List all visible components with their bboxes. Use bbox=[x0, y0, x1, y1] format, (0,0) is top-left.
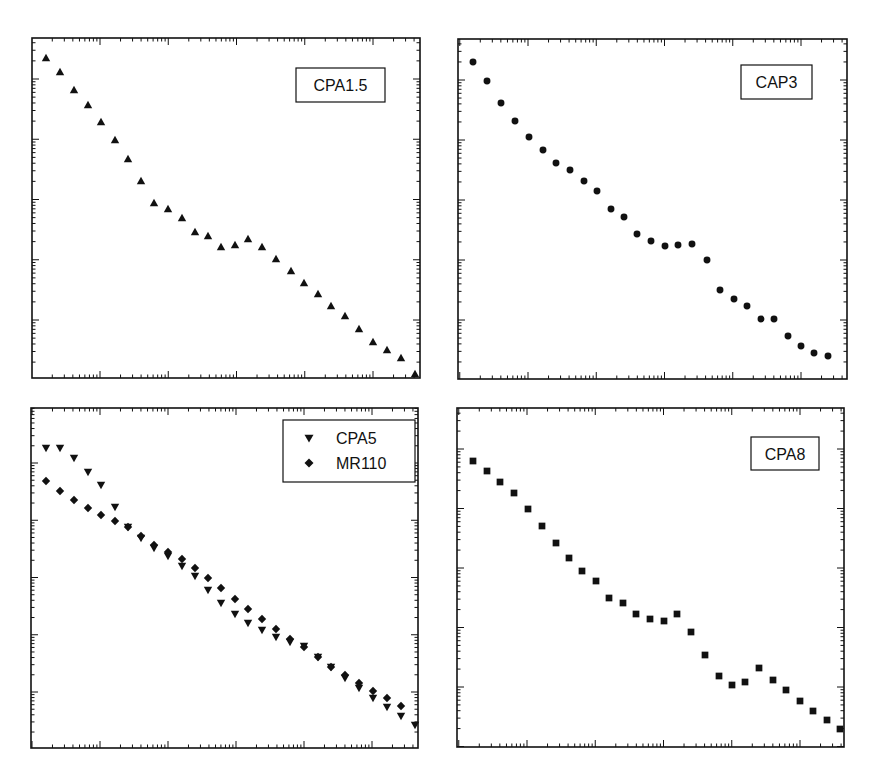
series-label: CPA8 bbox=[765, 446, 806, 463]
square-marker bbox=[553, 540, 560, 547]
triangle-down-marker bbox=[42, 445, 50, 452]
circle-marker bbox=[648, 238, 655, 245]
square-marker bbox=[620, 600, 627, 607]
circle-marker bbox=[567, 167, 574, 174]
triangle-down-marker bbox=[217, 600, 225, 607]
triangle-up-marker bbox=[42, 54, 50, 61]
square-marker bbox=[742, 679, 749, 686]
circle-marker bbox=[662, 243, 669, 250]
figure: CPA1.5 CAP3 CPA5MR110 CPA8 bbox=[0, 0, 870, 768]
circle-marker bbox=[634, 231, 641, 238]
diamond-marker bbox=[178, 555, 186, 563]
circle-marker bbox=[825, 353, 832, 360]
square-marker bbox=[702, 652, 709, 659]
triangle-up-marker bbox=[341, 312, 349, 319]
series-label: CPA1.5 bbox=[314, 77, 368, 94]
square-marker bbox=[688, 629, 695, 636]
square-marker bbox=[797, 698, 804, 705]
circle-marker bbox=[540, 147, 547, 154]
triangle-down-marker bbox=[191, 573, 199, 580]
series-label-box: CAP3 bbox=[741, 65, 812, 99]
triangle-down-marker bbox=[369, 695, 377, 702]
triangle-up-marker bbox=[191, 228, 199, 235]
triangle-up-marker bbox=[369, 338, 377, 345]
triangle-up-marker bbox=[56, 68, 64, 75]
square-marker bbox=[810, 708, 817, 715]
triangle-down-marker bbox=[204, 587, 212, 594]
square-marker bbox=[484, 468, 491, 475]
legend-entry-label: CPA5 bbox=[336, 430, 377, 447]
circle-marker bbox=[621, 214, 628, 221]
diamond-marker bbox=[397, 702, 405, 710]
triangle-down-marker bbox=[56, 445, 64, 452]
circle-marker bbox=[470, 59, 477, 66]
square-marker bbox=[770, 677, 777, 684]
square-marker bbox=[674, 611, 681, 618]
triangle-up-marker bbox=[314, 290, 322, 297]
diamond-marker bbox=[97, 511, 105, 519]
diamond-marker bbox=[204, 574, 212, 582]
panel-cap3: CAP3 bbox=[458, 39, 847, 379]
circle-marker bbox=[689, 241, 696, 248]
panel-cpa5-mr110: CPA5MR110 bbox=[31, 408, 419, 748]
circle-marker bbox=[594, 188, 601, 195]
square-marker bbox=[783, 687, 790, 694]
square-marker bbox=[661, 618, 668, 625]
circle-marker bbox=[581, 178, 588, 185]
series-label-box: CPA8 bbox=[751, 437, 819, 470]
square-marker bbox=[633, 611, 640, 618]
circle-marker bbox=[744, 303, 751, 310]
circle-marker bbox=[553, 160, 560, 167]
square-marker bbox=[497, 479, 504, 486]
triangle-down-marker bbox=[383, 704, 391, 711]
square-marker bbox=[566, 555, 573, 562]
square-marker bbox=[593, 578, 600, 585]
square-marker bbox=[525, 506, 532, 513]
circle-marker bbox=[675, 242, 682, 249]
square-marker bbox=[511, 490, 518, 497]
triangle-up-marker bbox=[164, 205, 172, 212]
diamond-marker bbox=[191, 564, 199, 572]
triangle-down-marker bbox=[178, 563, 186, 570]
circle-marker bbox=[798, 343, 805, 350]
triangle-up-marker bbox=[70, 86, 78, 93]
circle-marker bbox=[704, 257, 711, 264]
square-marker bbox=[824, 717, 831, 724]
triangle-down-marker bbox=[97, 482, 105, 489]
triangle-up-marker bbox=[287, 267, 295, 274]
legend: CPA5MR110 bbox=[283, 420, 415, 482]
triangle-down-marker bbox=[84, 469, 92, 476]
triangle-down-marker bbox=[397, 713, 405, 720]
triangle-down-marker bbox=[111, 504, 119, 511]
diamond-marker bbox=[383, 694, 391, 702]
diamond-marker bbox=[272, 625, 280, 633]
diamond-marker bbox=[42, 477, 50, 485]
diamond-marker bbox=[231, 595, 239, 603]
series-mr110 bbox=[42, 477, 405, 710]
circle-marker bbox=[526, 134, 533, 141]
triangle-up-marker bbox=[244, 235, 252, 242]
square-marker bbox=[647, 616, 654, 623]
triangle-up-marker bbox=[178, 214, 186, 221]
triangle-down-marker bbox=[258, 627, 266, 634]
triangle-up-marker bbox=[111, 136, 119, 143]
triangle-down-marker bbox=[244, 620, 252, 627]
triangle-up-marker bbox=[397, 354, 405, 361]
diamond-marker bbox=[70, 496, 78, 504]
legend-entry-label: MR110 bbox=[336, 455, 386, 472]
triangle-down-marker bbox=[272, 634, 280, 641]
diamond-marker bbox=[150, 541, 158, 549]
diamond-marker bbox=[341, 671, 349, 679]
series-cpa8 bbox=[470, 458, 844, 733]
square-marker bbox=[716, 673, 723, 680]
triangle-down-marker bbox=[70, 455, 78, 462]
triangle-up-marker bbox=[217, 243, 225, 250]
square-marker bbox=[837, 726, 844, 733]
triangle-up-marker bbox=[300, 279, 308, 286]
triangle-up-marker bbox=[150, 199, 158, 206]
triangle-up-marker bbox=[258, 243, 266, 250]
circle-marker bbox=[731, 296, 738, 303]
circle-marker bbox=[484, 78, 491, 85]
diamond-marker bbox=[258, 615, 266, 623]
triangle-up-marker bbox=[84, 101, 92, 108]
